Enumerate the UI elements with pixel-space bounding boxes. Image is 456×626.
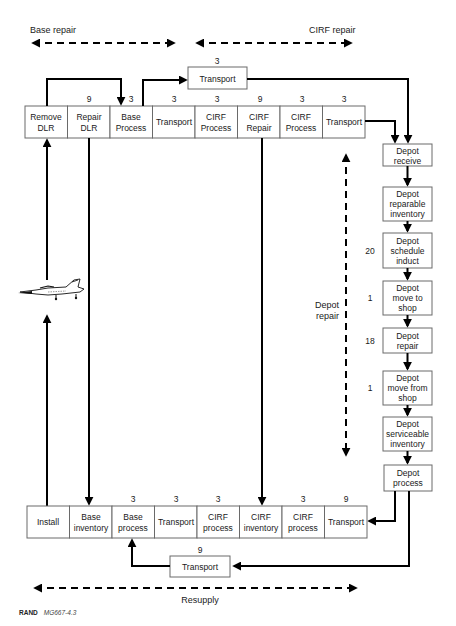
top-label-transport-2: Transport [326, 117, 363, 127]
depot-reparable-l3: inventory [390, 209, 425, 219]
depot-repair-l1: Depot [396, 331, 419, 341]
arrow-bottom-transport-to-base-process [132, 540, 170, 566]
top-value-transport-2: 3 [342, 94, 347, 104]
credit-org: RAND [19, 609, 38, 616]
top-transport-value: 3 [215, 56, 220, 66]
top-value-cirf-repair: 9 [258, 94, 263, 104]
bottom-label-cirf-inventory-2: inventory [244, 523, 279, 533]
bottom-label-transport-2: Transport [328, 517, 365, 527]
bottom-label-cirf-inventory-1: CIRF [251, 512, 271, 522]
depot-move-to-value: 1 [368, 293, 373, 303]
bottom-value-transport-2: 9 [344, 494, 349, 504]
depot-serviceable-l1: Depot [396, 419, 419, 429]
top-value-base-process: 3 [129, 94, 134, 104]
depot-repair-value: 18 [365, 336, 375, 346]
top-box-remove-dlr [25, 106, 68, 138]
depot-serviceable-l3: inventory [390, 439, 425, 449]
phase-label-base-repair: Base repair [30, 25, 76, 35]
bottom-transport-value: 9 [198, 545, 203, 555]
top-value-cirf-process-2: 3 [300, 94, 305, 104]
phase-label-cirf-repair: CIRF repair [309, 25, 356, 35]
top-box-cirf-repair [238, 106, 281, 138]
bottom-value-base-process: 3 [131, 494, 136, 504]
depot-schedule-l3: induct [396, 256, 419, 266]
bottom-label-base-process-1: Base [123, 512, 143, 522]
depot-schedule-l1: Depot [396, 236, 419, 246]
bottom-transport-label: Transport [182, 562, 219, 572]
bottom-box-cirf-process-2 [282, 506, 325, 538]
depot-move-from-value: 1 [368, 383, 373, 393]
bottom-value-transport: 3 [174, 494, 179, 504]
bottom-label-base-inventory-2: inventory [74, 523, 109, 533]
top-label-cirf-process2-1: CIRF [291, 112, 311, 122]
bottom-label-transport: Transport [158, 517, 195, 527]
top-box-cirf-process-2 [280, 106, 323, 138]
top-row: 9 3 3 3 9 3 3 Remove DLR Repair DLR Base… [25, 94, 365, 138]
arrow-base-process-to-top-transport [143, 80, 186, 106]
depot-schedule-value: 20 [365, 246, 375, 256]
top-label-base-process-1: Base [121, 112, 141, 122]
top-label-remove-dlr-1: Remove [30, 112, 62, 122]
depot-receive-l2: receive [394, 156, 422, 166]
top-label-cirf-process2-2: Process [286, 123, 317, 133]
top-label-transport: Transport [156, 117, 193, 127]
depot-move-from-l1: Depot [396, 373, 419, 383]
top-box-cirf-process [195, 106, 238, 138]
bottom-label-install: Install [37, 517, 59, 527]
top-box-repair-dlr [68, 106, 111, 138]
depot-move-to-l3: shop [398, 303, 417, 313]
bottom-box-base-process [112, 506, 155, 538]
depot-move-to-l1: Depot [396, 283, 419, 293]
pipeline-diagram: Base repair CIRF repair 3 Transport 9 3 … [0, 0, 456, 626]
depot-schedule-l2: schedule [390, 246, 424, 256]
top-value-transport: 3 [172, 94, 177, 104]
bottom-label-cirf-process-2: process [203, 523, 233, 533]
bottom-label-base-inventory-1: Base [81, 512, 101, 522]
bottom-label-cirf-process2-2: process [288, 523, 318, 533]
depot-repair-l2: repair [397, 341, 419, 351]
bottom-label-cirf-process2-1: CIRF [293, 512, 313, 522]
depot-serviceable-l2: serviceable [386, 429, 429, 439]
top-value-cirf-process: 3 [215, 94, 220, 104]
top-box-base-process [110, 106, 153, 138]
top-label-repair-dlr-1: Repair [76, 112, 101, 122]
depot-reparable-l2: reparable [390, 199, 426, 209]
bottom-row: 3 3 3 3 9 Install Base inventory Base pr… [27, 494, 367, 538]
top-label-cirf-process-1: CIRF [206, 112, 226, 122]
arrow-remove-to-base-process [47, 79, 121, 106]
depot-process-l1: Depot [397, 468, 420, 478]
depot-move-to-l2: move to [392, 293, 423, 303]
depot-move-from-l2: move from [387, 383, 427, 393]
top-label-base-process-2: Process [116, 123, 147, 133]
top-value-repair-dlr: 9 [87, 94, 92, 104]
bottom-value-cirf-process-2: 3 [301, 494, 306, 504]
depot-move-from-l3: shop [398, 393, 417, 403]
bottom-label-cirf-process-1: CIRF [208, 512, 228, 522]
figure-credit: RAND MG667-4.3 [19, 601, 77, 618]
depot-receive-l1: Depot [396, 146, 419, 156]
credit-figure-id: MG667-4.3 [44, 609, 77, 616]
top-label-cirf-process-2: Process [201, 123, 232, 133]
depot-reparable-l1: Depot [396, 189, 419, 199]
top-label-repair-dlr-2: DLR [80, 123, 97, 133]
depot-process-l2: process [393, 478, 423, 488]
top-label-remove-dlr-2: DLR [37, 123, 54, 133]
bottom-box-cirf-process [197, 506, 240, 538]
top-label-cirf-repair-2: Repair [246, 123, 271, 133]
phase-label-resupply: Resupply [181, 595, 219, 605]
bottom-label-base-process-2: process [118, 523, 148, 533]
arrow-depot-process-to-transport [369, 491, 395, 521]
phase-label-depot-repair-1: Depot [315, 300, 340, 310]
bottom-box-cirf-inventory [240, 506, 283, 538]
arrow-cirf-transport-to-depot [365, 121, 395, 142]
top-transport-label: Transport [199, 74, 236, 84]
depot-column: Depot receive Depot reparable inventory … [365, 144, 432, 491]
bottom-value-cirf-process: 3 [216, 494, 221, 504]
diagram-canvas: Base repair CIRF repair 3 Transport 9 3 … [0, 0, 456, 626]
top-label-cirf-repair-1: CIRF [249, 112, 269, 122]
phase-label-depot-repair-2: repair [316, 311, 339, 321]
bottom-box-base-inventory [70, 506, 113, 538]
fighter-jet-icon [18, 279, 84, 300]
